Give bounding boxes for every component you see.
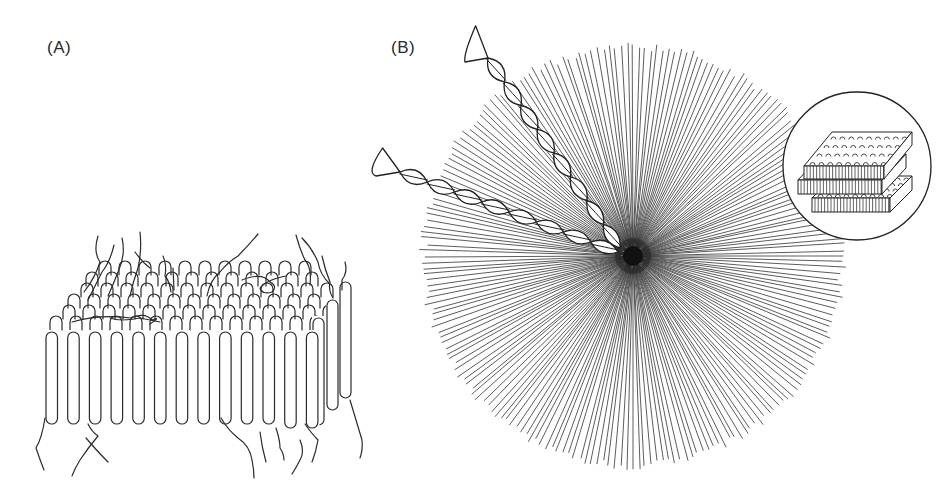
twisted-ribbon <box>372 148 619 254</box>
radial-lamellae <box>419 43 846 470</box>
diagram-canvas <box>0 0 947 492</box>
hairpin-front-row <box>45 330 319 438</box>
magnified-inset <box>783 92 931 240</box>
twisted-lamellae <box>372 26 622 254</box>
lamella-panel <box>36 232 362 478</box>
spherulite-panel <box>372 26 931 470</box>
hairpin-back-rows <box>50 261 335 330</box>
